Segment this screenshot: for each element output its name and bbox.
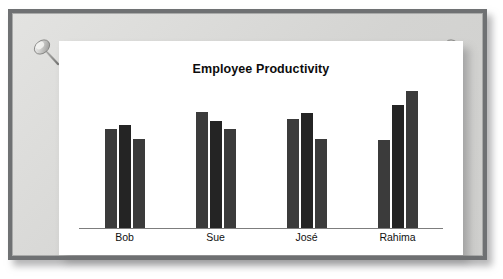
bar-group-jose [261, 87, 352, 228]
bar [287, 119, 299, 228]
x-tick-label: Bob [79, 231, 170, 243]
bar [392, 105, 404, 228]
x-axis-labels: Bob Sue José Rahima [79, 231, 443, 243]
bar [315, 139, 327, 228]
bar [119, 125, 131, 228]
board-mat: Employee Productivity [12, 13, 483, 256]
bar [133, 139, 145, 228]
bar [301, 113, 313, 228]
bar [210, 121, 222, 228]
bar [196, 112, 208, 228]
x-axis-line [79, 228, 443, 229]
bar-group-bob [79, 87, 170, 228]
bar-group-rahima [352, 87, 443, 228]
bar [105, 129, 117, 228]
board-frame: Employee Productivity [8, 9, 487, 260]
screenshot-root: Employee Productivity [0, 0, 503, 279]
bar [224, 129, 236, 228]
chart-title: Employee Productivity [59, 62, 463, 76]
bar-groups [79, 87, 443, 228]
bar-group-sue [170, 87, 261, 228]
x-tick-label: José [261, 231, 352, 243]
bar [406, 91, 418, 228]
x-tick-label: Sue [170, 231, 261, 243]
chart-card: Employee Productivity [59, 41, 463, 255]
x-tick-label: Rahima [352, 231, 443, 243]
plot-area [79, 87, 443, 229]
bar [378, 140, 390, 228]
